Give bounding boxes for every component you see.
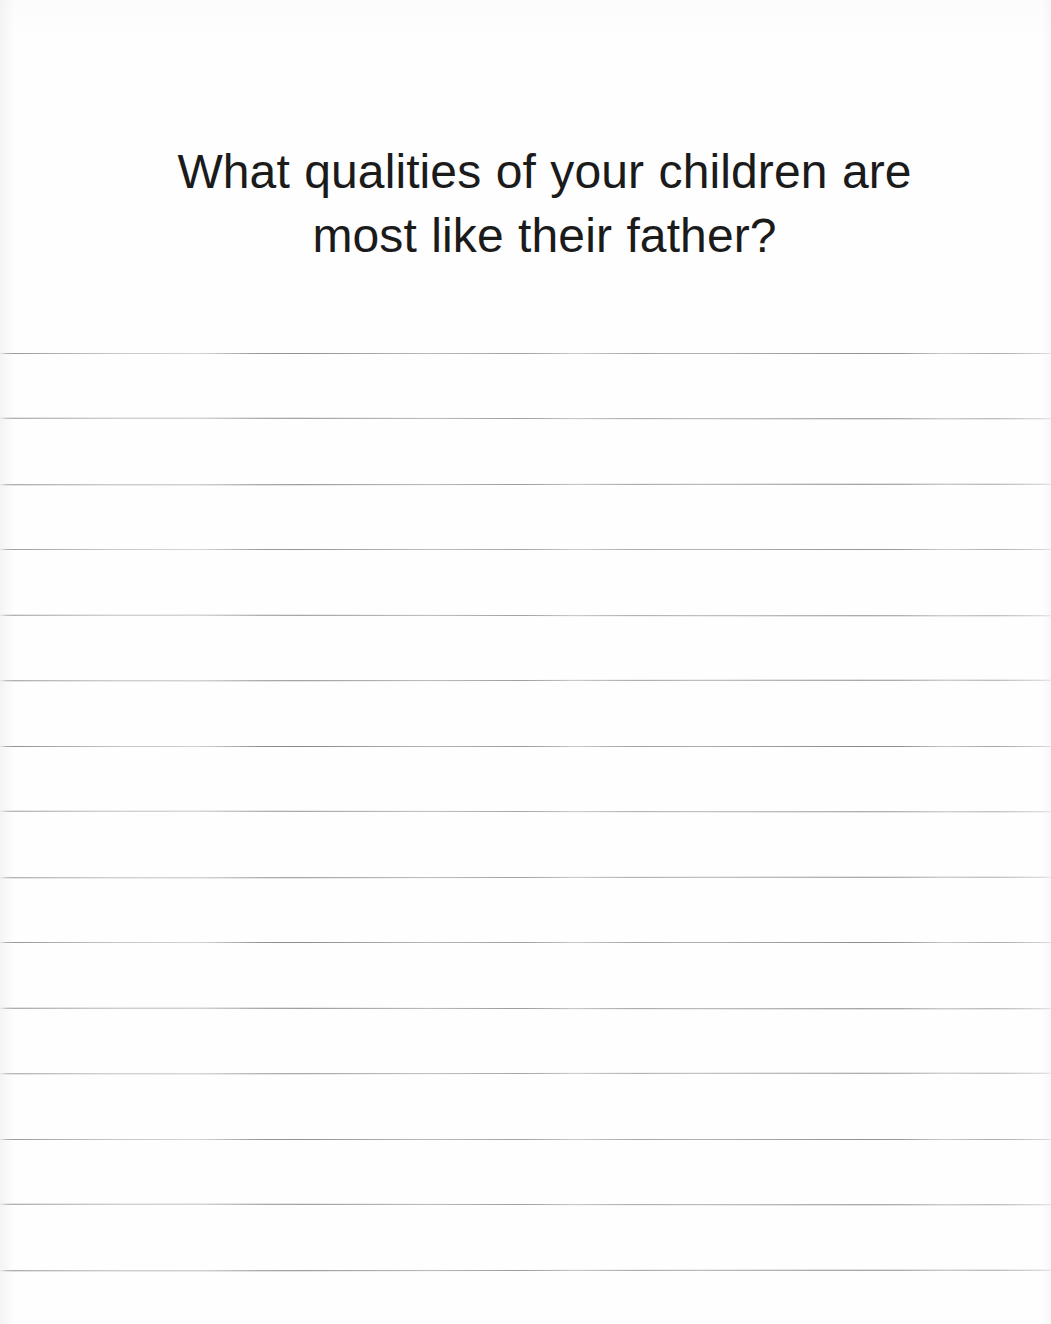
prompt-question: What qualities of your children are most…	[145, 140, 945, 268]
writing-line[interactable]	[0, 1073, 1051, 1075]
journal-page: What qualities of your children are most…	[0, 0, 1051, 1324]
writing-line[interactable]	[0, 680, 1051, 682]
writing-line[interactable]	[0, 418, 1051, 420]
writing-line[interactable]	[0, 877, 1051, 879]
writing-line[interactable]	[0, 811, 1051, 813]
writing-line[interactable]	[0, 1204, 1051, 1206]
writing-line[interactable]	[0, 484, 1051, 486]
writing-line[interactable]	[0, 746, 1051, 747]
prompt-heading-block: What qualities of your children are most…	[0, 140, 1051, 268]
writing-line[interactable]	[0, 1139, 1051, 1140]
writing-line[interactable]	[0, 549, 1051, 550]
writing-line[interactable]	[0, 353, 1051, 354]
writing-line[interactable]	[0, 615, 1051, 617]
writing-line[interactable]	[0, 942, 1051, 943]
writing-line[interactable]	[0, 1008, 1051, 1010]
writing-line[interactable]	[0, 1270, 1051, 1272]
